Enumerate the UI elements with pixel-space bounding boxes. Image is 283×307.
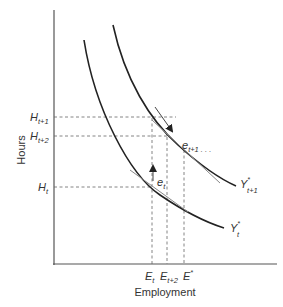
label-point-e-t: et	[157, 176, 166, 191]
curve-y-t	[84, 40, 224, 228]
curve-y-t1	[113, 25, 236, 186]
arrow-down-icon	[155, 107, 172, 131]
x-axis-title: Employment	[134, 286, 195, 298]
vertical-guides	[152, 118, 184, 264]
axes	[53, 10, 277, 265]
label-h-t2: Ht+2	[30, 130, 49, 145]
isoquant-diagram: Ht+1 Ht+2 Ht Hours Et Et+2 E* Employment…	[0, 0, 283, 307]
label-e-t2: Et+2	[160, 270, 179, 285]
label-curve-y-t: Y*t	[230, 220, 240, 239]
label-e-t: Et	[145, 270, 155, 285]
y-axis-title: Hours	[15, 135, 27, 165]
label-e-star: E*	[183, 269, 193, 282]
label-h-t1: Ht+1	[30, 111, 49, 126]
label-h-t: Ht	[38, 181, 49, 196]
label-curve-y-t1: Y*t+1	[240, 176, 258, 195]
